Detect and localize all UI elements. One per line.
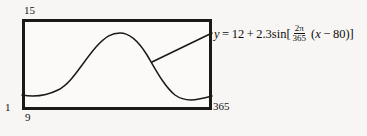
equation-leader-line — [152, 33, 212, 62]
equation-fraction: 2π 365 — [292, 24, 308, 44]
equation-function: sin — [272, 28, 287, 41]
equation-lhs: y — [214, 28, 220, 41]
equation-open-bracket: [ — [286, 28, 290, 41]
equation-minus: − — [323, 28, 330, 41]
figure-container: 15 1 9 365 y = 12 + 2.3 sin [ 2π 365 ( x… — [0, 0, 367, 136]
x-max-label: 365 — [213, 101, 230, 112]
equation-amplitude: 2.3 — [256, 28, 272, 41]
fraction-denominator: 365 — [292, 34, 308, 43]
leader-line-layer — [0, 0, 367, 136]
equation-variable: x — [315, 28, 321, 41]
y-min-label: 1 — [5, 102, 11, 113]
y-max-label: 15 — [24, 5, 35, 16]
equation-plus: + — [247, 28, 254, 41]
equation-vertical-shift: 12 — [232, 28, 245, 41]
equation-annotation: y = 12 + 2.3 sin [ 2π 365 ( x − 80 ) ] — [214, 24, 354, 44]
equation-equals: = — [222, 28, 229, 41]
equation-phase-shift: 80 — [333, 28, 346, 41]
x-min-label: 9 — [25, 112, 31, 123]
equation-close-bracket: ] — [350, 28, 354, 41]
